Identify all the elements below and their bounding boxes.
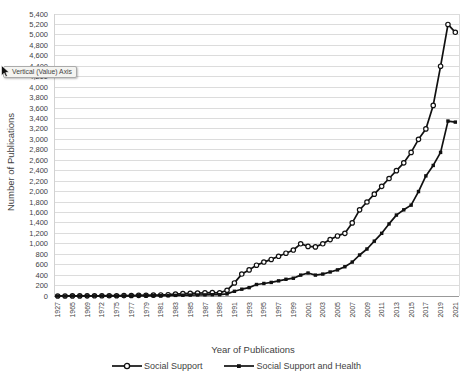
svg-text:1983: 1983	[172, 302, 179, 318]
svg-text:2015: 2015	[408, 302, 415, 318]
y-axis-tick-labels[interactable]: 02004006008001,0001,2001,4001,6001,8002,…	[29, 10, 48, 301]
excel-chart-page: 02004006008001,0001,2001,4001,6001,8002,…	[0, 0, 473, 391]
svg-text:2013: 2013	[393, 302, 400, 318]
legend-item-social-support[interactable]: Social Support	[112, 361, 203, 371]
svg-text:2019: 2019	[437, 302, 444, 318]
svg-text:2,600: 2,600	[29, 156, 48, 165]
svg-text:5,400: 5,400	[29, 10, 48, 19]
svg-text:1927: 1927	[54, 302, 61, 318]
svg-text:1991: 1991	[231, 302, 238, 318]
legend-sample-open-circle-line-icon	[112, 361, 142, 371]
svg-text:3,000: 3,000	[29, 135, 48, 144]
svg-text:1965: 1965	[69, 302, 76, 318]
svg-text:3,600: 3,600	[29, 104, 48, 113]
svg-text:1999: 1999	[290, 302, 297, 318]
svg-text:1969: 1969	[84, 302, 91, 318]
svg-text:2021: 2021	[452, 302, 459, 318]
svg-text:4,600: 4,600	[29, 51, 48, 60]
svg-text:5,000: 5,000	[29, 30, 48, 39]
y-axis-title[interactable]: Number of Publications	[5, 113, 16, 211]
svg-text:1987: 1987	[202, 302, 209, 318]
svg-text:3,400: 3,400	[29, 114, 48, 123]
svg-text:1972: 1972	[98, 302, 105, 318]
svg-text:2,800: 2,800	[29, 145, 48, 154]
axis-tooltip: Vertical (Value) Axis	[3, 66, 77, 78]
mouse-cursor-icon	[1, 65, 10, 78]
chart-legend: Social Support Social Support and Health	[0, 361, 473, 371]
svg-text:1975: 1975	[113, 302, 120, 318]
svg-text:3,200: 3,200	[29, 124, 48, 133]
gridlines	[54, 14, 459, 296]
svg-text:1,800: 1,800	[29, 198, 48, 207]
svg-text:2011: 2011	[378, 302, 385, 317]
x-axis-tick-labels[interactable]: 1927196519691972197519771979198119831985…	[54, 302, 459, 318]
svg-text:2009: 2009	[364, 302, 371, 318]
svg-text:1981: 1981	[157, 302, 164, 318]
legend-item-social-support-and-health[interactable]: Social Support and Health	[224, 361, 361, 371]
svg-text:5,200: 5,200	[29, 20, 48, 29]
publications-line-chart[interactable]: 02004006008001,0001,2001,4001,6001,8002,…	[0, 0, 473, 391]
svg-text:1985: 1985	[187, 302, 194, 318]
svg-text:2001: 2001	[305, 302, 312, 318]
svg-text:2003: 2003	[319, 302, 326, 318]
svg-text:200: 200	[35, 281, 48, 290]
svg-text:2,000: 2,000	[29, 187, 48, 196]
svg-text:400: 400	[35, 271, 48, 280]
svg-text:4,800: 4,800	[29, 41, 48, 50]
svg-text:1997: 1997	[275, 302, 282, 318]
legend-label: Social Support	[144, 361, 203, 371]
legend-label: Social Support and Health	[256, 361, 361, 371]
series-social-support-and-health[interactable]	[56, 119, 457, 297]
axis-tooltip-text: Vertical (Value) Axis	[12, 68, 72, 75]
svg-text:600: 600	[35, 260, 48, 269]
svg-text:0: 0	[44, 292, 48, 301]
svg-text:800: 800	[35, 250, 48, 259]
svg-text:2,200: 2,200	[29, 177, 48, 186]
svg-text:1995: 1995	[260, 302, 267, 318]
svg-text:2,400: 2,400	[29, 166, 48, 175]
svg-text:1979: 1979	[143, 302, 150, 318]
x-axis-title[interactable]: Year of Publications	[211, 344, 295, 355]
svg-text:1977: 1977	[128, 302, 135, 318]
svg-text:2005: 2005	[334, 302, 341, 318]
svg-text:1,200: 1,200	[29, 229, 48, 238]
svg-text:1989: 1989	[216, 302, 223, 318]
svg-text:1,600: 1,600	[29, 208, 48, 217]
svg-text:3,800: 3,800	[29, 93, 48, 102]
svg-text:4,000: 4,000	[29, 83, 48, 92]
svg-text:1,400: 1,400	[29, 218, 48, 227]
svg-text:1993: 1993	[246, 302, 253, 318]
svg-text:2017: 2017	[422, 302, 429, 318]
legend-sample-filled-square-line-icon	[224, 361, 254, 371]
svg-text:1,000: 1,000	[29, 239, 48, 248]
svg-text:2007: 2007	[349, 302, 356, 318]
